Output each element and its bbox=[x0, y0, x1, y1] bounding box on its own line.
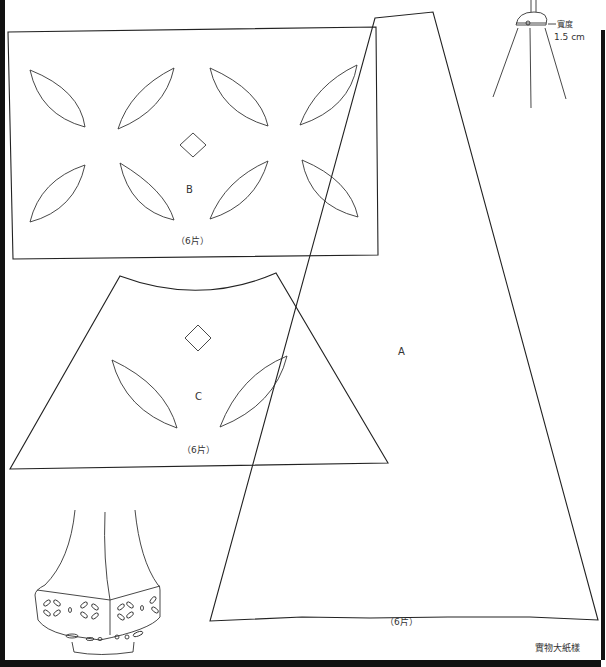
piece-b-count: （6片） bbox=[176, 235, 209, 246]
footer-note: 實物大紙樣 bbox=[535, 642, 580, 653]
piece-a bbox=[210, 12, 598, 621]
pattern-sheet: B （6片） C （6片） A （6片） 寬度 1.5 cm bbox=[0, 0, 606, 667]
piece-b: B （6片） bbox=[8, 27, 378, 259]
piece-b-label: B bbox=[186, 184, 193, 195]
width-value: 1.5 cm bbox=[554, 32, 585, 42]
piece-c-label: C bbox=[195, 391, 202, 402]
piece-a-count: （6片） bbox=[385, 616, 418, 627]
piece-c-count: （6片） bbox=[182, 444, 215, 455]
piece-c: C （6片） bbox=[10, 273, 388, 469]
piece-a-label: A bbox=[398, 346, 405, 357]
frame-detail-illustration: 寬度 1.5 cm bbox=[493, 0, 585, 108]
lamp-illustration bbox=[35, 510, 160, 655]
width-label: 寬度 bbox=[557, 19, 573, 29]
